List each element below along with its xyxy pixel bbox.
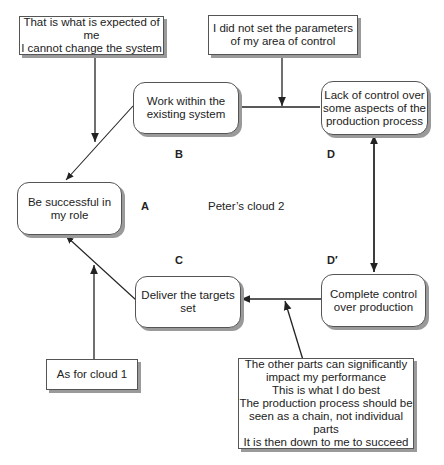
- diagram-title: Peter’s cloud 2: [208, 200, 284, 212]
- assumption-bd-box: I did not set the parameters of my area …: [208, 15, 358, 55]
- label-c: C: [175, 254, 183, 266]
- label-a: A: [141, 200, 149, 212]
- assumption-ab-box: That is what is expected of me I cannot …: [19, 16, 164, 55]
- node-a-box: Be successful in my role: [17, 182, 122, 235]
- assumption-cd-prime-box: The other parts can significantly impact…: [238, 358, 414, 449]
- label-d-prime: D′: [327, 254, 338, 266]
- node-b-box: Work within the existing system: [133, 82, 239, 134]
- label-d: D: [327, 148, 335, 160]
- label-b: B: [175, 148, 183, 160]
- node-c-box: Deliver the targets set: [135, 276, 241, 328]
- node-d-prime-box: Complete control over production: [321, 274, 426, 327]
- node-d-box: Lack of control over some aspects of the…: [321, 81, 428, 135]
- assumption-ac-box: As for cloud 1: [46, 359, 138, 390]
